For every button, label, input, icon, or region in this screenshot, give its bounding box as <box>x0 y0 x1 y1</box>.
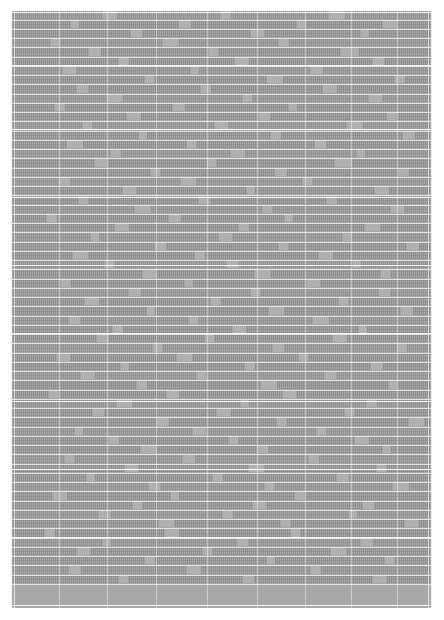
cell-gap <box>399 169 409 176</box>
table-row <box>11 566 432 576</box>
row-text-texture <box>11 206 432 213</box>
row-text-texture <box>11 381 432 389</box>
cell-gap <box>223 511 233 518</box>
row-text-texture <box>11 418 432 426</box>
section-separator-8 <box>11 537 432 538</box>
table-row <box>11 428 432 437</box>
cell-gap <box>275 169 287 176</box>
row-text-texture <box>11 344 432 352</box>
cell-gap <box>193 428 206 435</box>
column-divider-2 <box>107 11 108 608</box>
cell-gap <box>139 132 147 139</box>
cell-gap <box>61 280 71 287</box>
row-text-texture <box>11 511 432 518</box>
section-separator-5 <box>11 333 432 334</box>
cell-gap <box>111 150 121 157</box>
cell-gap <box>371 363 383 370</box>
table-row <box>11 474 432 483</box>
table-row <box>11 48 432 58</box>
cell-gap <box>341 48 359 56</box>
cell-gap <box>251 289 260 296</box>
cell-gap <box>73 252 88 259</box>
cell-gap <box>273 344 284 352</box>
cell-gap <box>167 391 179 398</box>
table-row <box>11 492 432 502</box>
table-row <box>11 206 432 215</box>
row-text-texture <box>11 446 432 453</box>
cell-gap <box>345 409 354 416</box>
cell-gap <box>95 159 107 167</box>
cell-gap <box>171 492 179 500</box>
table-row <box>11 169 432 178</box>
table-row <box>11 409 432 418</box>
cell-gap <box>129 289 141 296</box>
table-row <box>11 372 432 381</box>
table-row <box>11 520 432 529</box>
cell-gap <box>317 428 326 435</box>
cell-gap <box>257 446 268 453</box>
cell-gap <box>69 566 81 574</box>
cell-gap <box>119 58 129 65</box>
cell-gap <box>373 58 384 65</box>
data-table <box>11 11 432 608</box>
cell-gap <box>237 539 248 546</box>
table-row <box>11 317 432 326</box>
cell-gap <box>153 344 162 352</box>
row-text-texture <box>11 520 432 527</box>
column-divider-8 <box>397 11 398 608</box>
column-divider-6 <box>305 11 306 608</box>
cell-gap <box>243 576 254 583</box>
cell-gap <box>133 502 142 509</box>
cell-gap <box>93 409 104 416</box>
cell-gap <box>355 437 369 444</box>
cell-gap <box>239 224 249 231</box>
column-divider-3 <box>156 11 157 608</box>
cell-gap <box>331 548 346 555</box>
section-separator-1 <box>11 65 432 66</box>
table-row <box>11 76 432 85</box>
column-divider-1 <box>59 11 60 608</box>
cell-gap <box>149 483 160 490</box>
cell-gap <box>141 446 157 453</box>
row-text-texture <box>11 243 432 250</box>
section-separator-2 <box>11 129 432 130</box>
table-row <box>11 159 432 169</box>
cell-gap <box>107 95 122 102</box>
section-separator-6 <box>11 401 432 402</box>
row-text-texture <box>11 150 432 157</box>
table-row <box>11 576 432 585</box>
column-divider-4 <box>207 11 208 608</box>
cell-gap <box>235 58 249 65</box>
row-text-texture <box>11 372 432 379</box>
table-row <box>11 104 432 113</box>
cell-gap <box>211 298 221 305</box>
section-separator-4 <box>11 265 432 266</box>
row-text-texture <box>11 113 432 120</box>
cell-gap <box>123 187 136 194</box>
cell-gap <box>397 344 407 352</box>
table-row <box>11 344 432 354</box>
table-row <box>11 455 432 465</box>
table-row <box>11 150 432 159</box>
table-row <box>11 381 432 391</box>
cell-gap <box>281 520 290 527</box>
cell-gap <box>119 576 128 583</box>
cell-gap <box>285 215 293 222</box>
cell-gap <box>315 141 326 148</box>
table-row <box>11 363 432 372</box>
table-row <box>11 141 432 150</box>
cell-gap <box>109 437 119 444</box>
table-row <box>11 178 432 187</box>
cell-gap <box>99 511 111 518</box>
cell-gap <box>313 317 329 324</box>
cell-gap <box>143 270 156 278</box>
table-row <box>11 298 432 307</box>
cell-gap <box>337 474 349 481</box>
cell-gap <box>131 30 142 37</box>
row-text-texture <box>11 58 432 65</box>
cell-gap <box>383 21 397 28</box>
cell-gap <box>67 141 83 148</box>
table-row <box>11 391 432 400</box>
cell-gap <box>231 150 245 157</box>
row-text-texture <box>11 335 432 342</box>
